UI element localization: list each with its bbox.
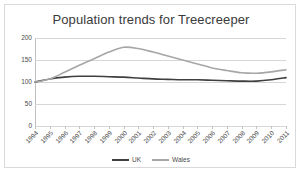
series-lines [35,38,286,126]
y-axis-tick-label: 50 [8,101,32,108]
y-axis: 050100150200 [5,5,32,174]
legend-item-wales[interactable]: Wales [152,157,190,164]
y-axis-tick-label: 0 [8,123,32,130]
chart-title: Population trends for Treecreeper [5,12,297,27]
y-axis-tick-label: 200 [8,35,32,42]
chart-legend: UKWales [5,157,297,164]
y-axis-tick-label: 100 [8,79,32,86]
x-axis-tick-label: 2011 [286,120,300,134]
chart-container: Population trends for Treecreeper 050100… [4,4,296,168]
plot-area [35,38,286,126]
y-axis-tick-label: 150 [8,57,32,64]
legend-label: Wales [172,157,190,164]
legend-item-uk[interactable]: UK [112,157,141,164]
series-line-uk [35,76,286,82]
legend-swatch-icon [152,159,169,161]
legend-label: UK [132,157,141,164]
legend-swatch-icon [112,159,129,161]
